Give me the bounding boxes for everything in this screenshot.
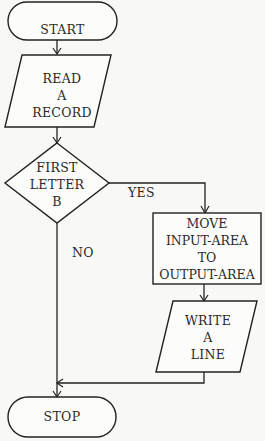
start-label: START — [8, 21, 117, 38]
read-text-line-1: READ — [22, 70, 102, 87]
read-text-line-2: A — [22, 87, 102, 104]
edge-write-join — [57, 372, 204, 383]
move-text-line-4: OUTPUT-AREA — [153, 266, 261, 283]
write-text-line-2: A — [168, 329, 248, 346]
no-label: NO — [72, 244, 94, 261]
write-text-line-1: WRITE — [168, 312, 248, 329]
move-label: MOVE INPUT-AREA TO OUTPUT-AREA — [153, 215, 261, 283]
yes-text: YES — [128, 184, 155, 201]
no-text: NO — [72, 244, 94, 261]
stop-text: STOP — [8, 408, 116, 425]
write-text-line-3: LINE — [168, 346, 248, 363]
start-text: START — [8, 21, 117, 38]
edge-yes — [109, 183, 205, 213]
yes-label: YES — [128, 184, 155, 201]
decision-label: FIRST LETTER B — [17, 159, 97, 210]
decision-text-line-1: FIRST — [17, 159, 97, 176]
read-record-label: READ A RECORD — [22, 70, 102, 121]
move-text-line-1: MOVE — [153, 215, 261, 232]
read-text-line-3: RECORD — [22, 104, 102, 121]
decision-text-line-3: B — [17, 193, 97, 210]
write-line-label: WRITE A LINE — [168, 312, 248, 363]
stop-label: STOP — [8, 408, 116, 425]
decision-text-line-2: LETTER — [17, 176, 97, 193]
move-text-line-2: INPUT-AREA — [153, 232, 261, 249]
move-text-line-3: TO — [153, 249, 261, 266]
